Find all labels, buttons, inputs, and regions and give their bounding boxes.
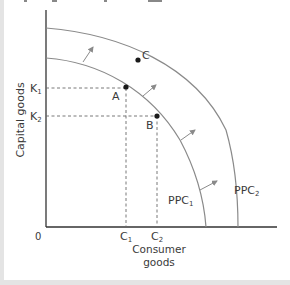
shift-arrow-icon [143,85,156,96]
point-b-label: B [146,119,154,132]
point-b [154,113,159,118]
shift-arrow-icon [83,47,93,62]
x-axis-title-line1: Consumer [132,243,186,255]
point-c-label: C [142,49,150,62]
y-axis-title: Capital goods [14,82,27,157]
ppc2-label: PPC2 [234,184,259,198]
guide-lines [46,88,157,227]
k1-label: K1 [30,82,42,96]
ppc-chart: A B C K1 K2 C1 C2 0 Capital goods Consum… [0,0,290,285]
shift-arrow-icon [200,181,217,190]
clipped-top-text [24,0,162,2]
c2-label: C2 [151,230,163,244]
k2-label: K2 [30,110,42,124]
point-c [135,57,140,62]
x-axis-title-line2: goods [143,256,175,268]
shift-arrow-icon [181,130,195,140]
point-a-label: A [112,90,120,103]
origin-label: 0 [35,231,41,242]
point-a [123,84,128,89]
ppc1-label: PPC1 [168,194,193,208]
c1-label: C1 [120,230,132,244]
